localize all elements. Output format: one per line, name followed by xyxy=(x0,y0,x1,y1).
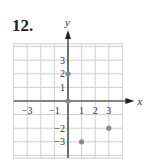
data-point xyxy=(65,98,70,103)
y-axis-label: y xyxy=(64,16,70,28)
y-tick-label: 2 xyxy=(60,68,65,79)
coordinate-plane: xy−3−1123321−2−3 xyxy=(0,0,154,166)
x-tick-label: 1 xyxy=(79,105,84,116)
x-tick-label: −3 xyxy=(22,105,33,116)
x-axis-label: x xyxy=(136,95,142,107)
x-tick-label: −1 xyxy=(49,105,60,116)
data-point xyxy=(106,126,111,131)
y-axis-arrow-icon xyxy=(65,30,71,39)
data-point xyxy=(79,139,84,144)
x-tick-label: 2 xyxy=(93,105,98,116)
x-axis-arrow-icon xyxy=(125,98,134,104)
y-tick-label: −2 xyxy=(54,123,65,134)
y-tick-label: 1 xyxy=(60,82,65,93)
y-tick-label: −3 xyxy=(54,136,65,147)
y-tick-label: 3 xyxy=(60,55,65,66)
data-point xyxy=(65,71,70,76)
x-tick-label: 3 xyxy=(106,105,111,116)
